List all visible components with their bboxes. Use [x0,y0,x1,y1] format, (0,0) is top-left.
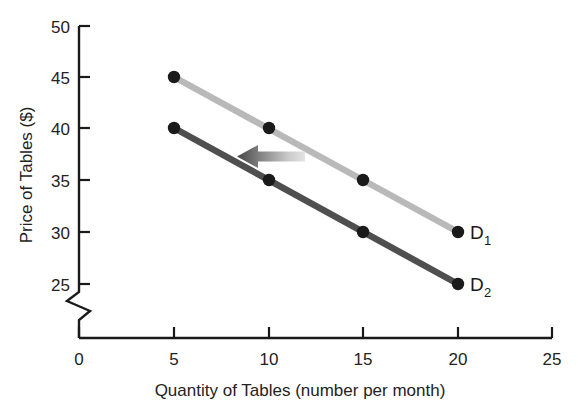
x-tick-label-10: 10 [260,350,279,369]
x-ticks-group: 0 5 10 15 20 25 [74,327,561,369]
y-tick-label-35: 35 [51,172,70,191]
x-tick-label-0: 0 [74,350,83,369]
x-tick-label-25: 25 [543,350,562,369]
series-d1 [168,71,464,238]
y-tick-label-40: 40 [51,120,70,139]
x-axis-title: Quantity of Tables (number per month) [155,381,446,400]
series-d2-point-4 [452,278,464,290]
series-d2 [168,122,464,290]
series-d2-label: D [470,274,484,295]
series-d2-point-1 [168,122,180,134]
series-d1-point-3 [357,174,369,186]
y-tick-label-30: 30 [51,224,70,243]
demand-shift-chart: 50 45 40 35 30 25 0 5 10 15 20 25 [0,0,578,408]
y-axis-title: Price of Tables ($) [17,107,36,244]
y-tick-label-50: 50 [51,18,70,37]
series-d2-label-group: D 2 [470,274,491,300]
series-d1-label-subscript: 1 [484,233,491,248]
series-d1-label: D [470,222,484,243]
y-ticks-group: 50 45 40 35 30 25 [51,18,90,295]
y-tick-label-25: 25 [51,276,70,295]
series-d1-label-group: D 1 [470,222,491,248]
series-d2-label-subscript: 2 [484,285,491,300]
series-d1-point-1 [168,71,180,83]
series-d2-point-2 [263,174,275,186]
series-d1-point-4 [452,226,464,238]
x-tick-label-15: 15 [354,350,373,369]
series-d2-point-3 [357,226,369,238]
y-tick-label-45: 45 [51,69,70,88]
x-tick-label-20: 20 [449,350,468,369]
chart-canvas: 50 45 40 35 30 25 0 5 10 15 20 25 [0,0,578,408]
series-d1-point-2 [263,122,275,134]
x-tick-label-5: 5 [169,350,178,369]
